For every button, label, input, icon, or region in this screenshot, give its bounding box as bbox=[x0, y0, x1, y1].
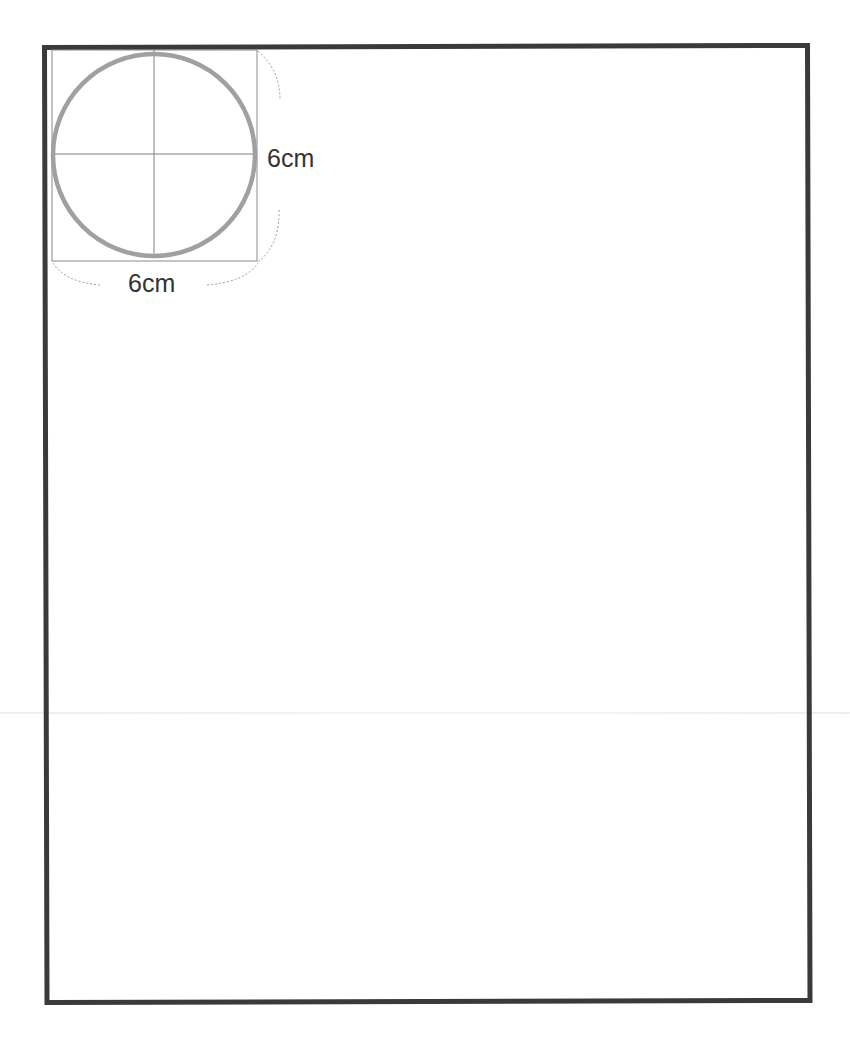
bottom-dimension-arc-left bbox=[53, 263, 100, 285]
bottom-dimension-arc-right bbox=[207, 263, 258, 285]
right-dimension-arc-bottom bbox=[258, 210, 279, 262]
circle-diagram bbox=[0, 0, 850, 1053]
width-dimension-label: 6cm bbox=[128, 269, 175, 298]
right-dimension-arc-top bbox=[258, 51, 280, 100]
height-dimension-label: 6cm bbox=[267, 144, 314, 173]
